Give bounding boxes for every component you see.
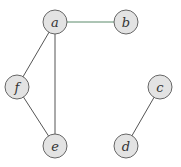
node-label-a: a bbox=[51, 15, 59, 30]
node-label-d: d bbox=[122, 139, 130, 154]
edges-layer bbox=[17, 22, 160, 146]
nodes-layer: abcdef bbox=[5, 10, 172, 158]
node-label-b: b bbox=[122, 15, 130, 30]
node-label-c: c bbox=[156, 80, 164, 95]
node-a: a bbox=[43, 10, 67, 34]
node-d: d bbox=[114, 134, 138, 158]
node-label-e: e bbox=[51, 139, 59, 154]
node-b: b bbox=[114, 10, 138, 34]
node-f: f bbox=[5, 75, 29, 99]
graph-diagram: abcdef bbox=[0, 0, 181, 167]
node-c: c bbox=[148, 75, 172, 99]
node-e: e bbox=[43, 134, 67, 158]
